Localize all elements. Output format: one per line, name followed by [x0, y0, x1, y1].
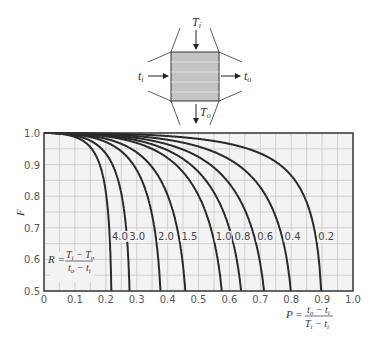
label-to: to: [244, 69, 251, 84]
label-Ti: Ti: [192, 15, 201, 30]
y-tick-label: 1.0: [24, 128, 40, 139]
exchanger-diagram: Ti To ti to: [138, 15, 251, 125]
arrow-right-icon: [221, 73, 241, 79]
curve-label: 0.6: [257, 231, 273, 242]
curve-label: 1.0: [216, 231, 232, 242]
y-axis-ticks: 0.50.60.70.80.91.0: [24, 128, 40, 297]
x-tick-label: 0.7: [252, 294, 268, 305]
curve-label: 2.0: [158, 231, 174, 242]
curve-label: 3.0: [129, 231, 145, 242]
x-tick-label: 0.3: [129, 294, 145, 305]
x-tick-label: 0.2: [98, 294, 114, 305]
curve-label: 0.8: [234, 231, 250, 242]
y-tick-label: 0.8: [24, 191, 40, 202]
curve-label: 1.5: [181, 231, 197, 242]
p-denominator: Ti − ti: [305, 318, 329, 331]
svg-text:P =: P =: [285, 308, 303, 320]
y-tick-label: 0.9: [24, 160, 40, 171]
arrow-down-icon: [193, 30, 199, 50]
arrow-right-icon: [148, 73, 169, 79]
svg-text:R =: R =: [47, 253, 65, 265]
exchanger-core: [171, 52, 219, 101]
r-formula: R = Ti − To to − ti: [47, 249, 95, 282]
x-tick-label: 0.6: [221, 294, 237, 305]
x-tick-label: 0.4: [160, 294, 176, 305]
label-To: To: [200, 105, 211, 120]
x-tick-label: 0.5: [191, 294, 207, 305]
figure: Ti To ti to 4.03.02.01.51.00.80.60.40.2 …: [0, 0, 374, 341]
x-tick-label: 1.0: [345, 294, 361, 305]
y-tick-label: 0.6: [24, 254, 40, 265]
y-tick-label: 0.5: [24, 286, 40, 297]
x-tick-label: 0.8: [283, 294, 299, 305]
p-formula: P = to − ti Ti − ti: [285, 304, 333, 331]
curve-label: 4.0: [112, 231, 128, 242]
x-tick-label: 0: [41, 294, 47, 305]
y-tick-label: 0.7: [24, 223, 40, 234]
p-numerator: to − ti: [307, 304, 330, 317]
curve-label: 0.4: [285, 231, 301, 242]
label-ti: ti: [138, 69, 144, 84]
curve-label: 0.2: [318, 231, 334, 242]
x-tick-label: 0.1: [67, 294, 83, 305]
y-axis-label: F: [14, 209, 26, 217]
arrow-down-icon: [193, 104, 199, 124]
